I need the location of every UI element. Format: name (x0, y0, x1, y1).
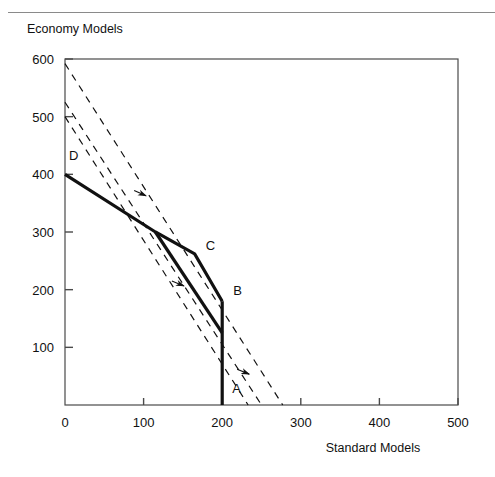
arrow-lower (237, 369, 249, 374)
x-tick-label: 200 (211, 415, 233, 430)
series-isoprofit-line-2 (65, 102, 262, 405)
figure-page: DCBA 0100200300400500100200300400500600 … (0, 0, 495, 477)
point-label-D: D (69, 148, 78, 163)
y-tick-label: 300 (32, 225, 54, 240)
plot-border (65, 59, 458, 405)
point-label-B: B (233, 283, 242, 298)
chart-canvas: DCBA 0100200300400500100200300400500600 … (0, 0, 495, 477)
arrow-upper (134, 190, 146, 195)
x-tick-label: 100 (133, 415, 155, 430)
x-tick-label: 300 (290, 415, 312, 430)
tick-labels-layer: 0100200300400500100200300400500600 (32, 52, 469, 430)
point-label-A: A (232, 381, 241, 396)
plot-frame (65, 59, 458, 405)
y-tick-label: 200 (32, 283, 54, 298)
axis-ticks (65, 59, 458, 405)
x-axis-title: Standard Models (326, 441, 421, 455)
y-tick-label: 100 (32, 340, 54, 355)
series-isoprofit-line-3 (65, 117, 248, 405)
x-tick-label: 500 (447, 415, 469, 430)
x-tick-label: 400 (369, 415, 391, 430)
y-tick-label: 600 (32, 52, 54, 67)
y-tick-label: 400 (32, 167, 54, 182)
y-tick-label: 500 (32, 110, 54, 125)
point-label-C: C (206, 238, 215, 253)
x-tick-label: 0 (61, 415, 68, 430)
y-axis-title: Economy Models (27, 22, 123, 36)
data-series-layer (65, 64, 283, 405)
point-labels-layer: DCBA (69, 148, 242, 396)
series-production-possibility-frontier-outer (65, 174, 222, 301)
series-isoprofit-line-1 (65, 64, 283, 405)
direction-arrows-layer (134, 190, 249, 374)
